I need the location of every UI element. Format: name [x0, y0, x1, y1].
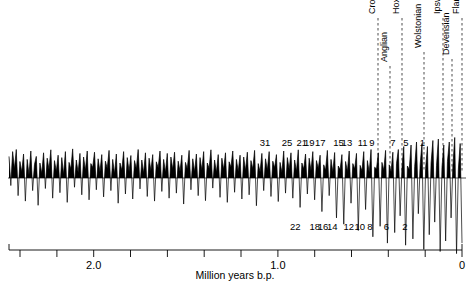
paleoclimate-chart: CromerianAnglianHoxnianWolstonianIpswich… [0, 0, 471, 292]
mis-even-label: 2 [402, 221, 407, 232]
mis-odd-label: 7 [390, 137, 395, 148]
mis-odd-labels: 31252119171513119751 [260, 137, 425, 148]
stage-name-label: Flandrian [451, 0, 461, 14]
stage-name-label: Anglian [379, 32, 389, 62]
mis-even-label: 10 [355, 221, 366, 232]
isotope-curve-figure: CromerianAnglianHoxnianWolstonianIpswich… [0, 0, 471, 292]
stage-boundaries-group: CromerianAnglianHoxnianWolstonianIpswich… [367, 0, 462, 172]
mis-odd-label: 13 [342, 137, 353, 148]
mis-even-labels: 221816141210862 [290, 221, 408, 232]
mis-odd-label: 9 [369, 137, 374, 148]
axis-tick-label: 2.0 [86, 259, 101, 271]
isotope-curve-line [9, 138, 462, 254]
mis-even-label: 6 [384, 221, 389, 232]
mis-odd-label: 17 [315, 137, 326, 148]
axis-tick-label: 0 [459, 259, 465, 271]
mis-even-label: 14 [327, 221, 338, 232]
stage-name-label: Hoxnian [391, 0, 401, 14]
stage-name-label: Devensian [441, 12, 451, 55]
mis-odd-label: 31 [260, 137, 271, 148]
stage-name-label: Ipswichian [432, 0, 442, 14]
mis-even-label: 8 [367, 221, 372, 232]
mis-odd-label: 19 [304, 137, 315, 148]
stage-name-label: Cromerian [367, 0, 377, 14]
stage-name-label: Wolstonian [413, 4, 423, 48]
mis-even-label: 12 [344, 221, 355, 232]
plot-area [8, 138, 466, 254]
mis-odd-label: 5 [403, 137, 408, 148]
mis-odd-label: 25 [282, 137, 293, 148]
x-axis: 2.01.00 [9, 244, 465, 271]
mis-odd-label: 11 [358, 137, 368, 148]
mis-odd-label: 1 [420, 137, 425, 148]
mis-even-label: 22 [290, 221, 301, 232]
axis-title: Million years b.p. [196, 269, 275, 281]
